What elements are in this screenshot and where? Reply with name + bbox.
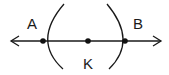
- left-arc: [48, 4, 64, 69]
- geometry-diagram: A B K: [0, 0, 169, 75]
- label-b: B: [133, 15, 143, 32]
- label-a: A: [27, 15, 37, 32]
- point-b: [122, 38, 128, 44]
- point-k: [85, 38, 91, 44]
- point-a: [40, 38, 46, 44]
- right-arc: [107, 4, 123, 69]
- label-k: K: [83, 55, 93, 72]
